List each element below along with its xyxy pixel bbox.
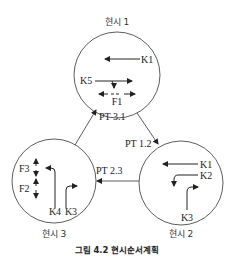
k3-arrow (187, 187, 198, 210)
transition-3-1-arrow (75, 110, 96, 145)
figure-caption: 그림 4.2 현시순서계획 (75, 245, 160, 255)
phase-3-f3-label: F3 (19, 163, 30, 174)
k4-arrow (46, 168, 55, 208)
k5-turn-arrow (112, 81, 114, 88)
phase-3-title: 현시 3 (42, 229, 67, 239)
phase-2-k3-label: K3 (181, 212, 193, 223)
k3-arrow (66, 186, 77, 208)
phase-2-title: 현시 2 (169, 229, 194, 239)
phase-2-k2-label: K2 (200, 170, 212, 181)
phase-2-k1-label: K1 (200, 159, 212, 170)
phase-1: 현시 1 K1 K5 F1 (74, 17, 160, 118)
phase-1-k5-label: K5 (80, 75, 92, 86)
k2-arrow (174, 175, 198, 186)
transition-2-3-label: PT 2.3 (96, 165, 123, 176)
phase-3-k4-label: K4 (49, 206, 61, 217)
phase-3-k3-label: K3 (65, 206, 77, 217)
transition-1-2-label: PT 1.2 (125, 138, 152, 149)
phase-2: K1 K2 K3 현시 2 (139, 141, 223, 239)
phase-1-f1-label: F1 (112, 96, 123, 107)
phase-3: F3 F2 K4 K3 현시 3 (12, 139, 96, 239)
phase-3-f2-label: F2 (19, 183, 30, 194)
transition-3-1-label: PT 3.1 (99, 111, 126, 122)
phase-1-title: 현시 1 (105, 17, 130, 27)
phase-1-k1-label: K1 (141, 54, 153, 65)
phase-sequence-diagram: 현시 1 K1 K5 F1 K1 K2 K3 현시 2 F3 F2 K4 K3 … (0, 0, 234, 257)
